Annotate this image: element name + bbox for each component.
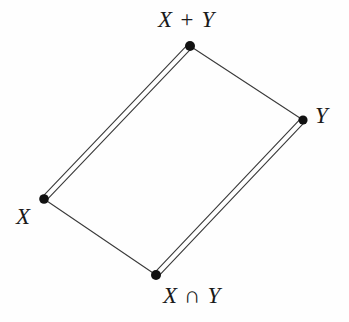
vertex-label-x: X [16,205,31,228]
vertex-label-meet: X ∩ Y [163,284,221,307]
edge-left-to-top-line-b [42,44,188,197]
node-dot-right [298,115,307,124]
edge-left-to-top-line-a [46,48,192,201]
lattice-figure: X + Y Y X X ∩ Y [0,0,349,322]
vertex-label-join: X + Y [158,8,215,31]
edge-top-to-right [190,46,303,120]
vertex-label-y: Y [315,104,328,127]
node-dot-left [39,194,49,204]
node-dot-bottom [151,270,161,280]
nodes-group [39,41,307,280]
edge-bottom-to-right-line-b [154,118,301,273]
edges-group [42,44,305,277]
edge-left-to-bottom [44,199,156,275]
lattice-graph-svg [0,0,349,322]
node-dot-top [185,41,195,51]
edge-bottom-to-right-line-a [158,122,305,277]
